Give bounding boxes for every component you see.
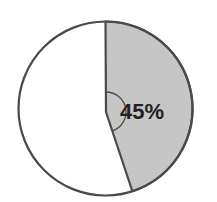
pie-chart: 45% [0, 0, 217, 202]
pie-group [19, 22, 193, 196]
slice-percent-label: 45% [120, 99, 164, 124]
